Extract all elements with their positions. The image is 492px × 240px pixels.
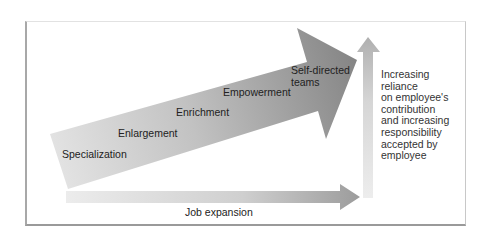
responsibility-arrow	[357, 37, 380, 198]
y-axis-label: Increasing reliance on employee's contri…	[381, 69, 471, 162]
stage-self-directed-teams: Self-directed teams	[291, 64, 350, 88]
x-axis-label: Job expansion	[185, 206, 253, 218]
y-label-line: responsibility	[381, 127, 471, 139]
stage-self-directed-line1: Self-directed	[291, 64, 350, 76]
stage-enrichment: Enrichment	[176, 106, 229, 118]
stage-empowerment: Empowerment	[223, 86, 291, 98]
y-label-line: Increasing	[381, 69, 471, 81]
y-label-line: employee	[381, 150, 471, 162]
stage-self-directed-line2: teams	[291, 76, 350, 88]
stage-specialization: Specialization	[62, 148, 127, 160]
stage-enlargement: Enlargement	[118, 127, 178, 139]
